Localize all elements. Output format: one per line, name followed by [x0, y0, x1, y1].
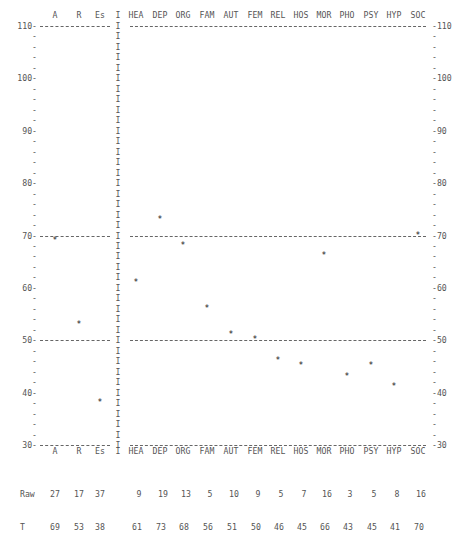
content-scale-label-bottom: HEA [129, 446, 144, 456]
left-axis-tick: - [32, 220, 37, 230]
separator-glyph: I [116, 42, 121, 52]
left-axis-tick: - [32, 63, 37, 73]
data-point-hos: * [299, 362, 304, 370]
t-score: 61 [132, 522, 142, 532]
right-axis-tick: - [432, 419, 437, 429]
right-axis-tick: - [432, 168, 437, 178]
separator-glyph: I [116, 241, 121, 251]
left-axis-tick: - [32, 168, 37, 178]
data-point-r: * [77, 321, 82, 329]
separator-glyph: I [116, 272, 121, 282]
left-axis-label: 50- [22, 335, 37, 345]
right-axis-tick: - [432, 115, 437, 125]
data-point-pho: * [345, 373, 350, 381]
reference-line-30 [40, 445, 110, 446]
raw-score: 9 [137, 489, 142, 499]
separator-glyph: I [116, 356, 121, 366]
right-axis-tick: - [432, 210, 437, 220]
data-point-fam: * [205, 305, 210, 313]
content-scale-label-top: HYP [387, 10, 402, 20]
separator-glyph: I [116, 115, 121, 125]
right-axis-label: -40 [432, 388, 447, 398]
content-scale-label-top: FAM [200, 10, 215, 20]
raw-score: 10 [229, 489, 239, 499]
validity-scale-label-bottom: A [53, 446, 58, 456]
content-scale-label-bottom: HYP [387, 446, 402, 456]
left-axis-tick: - [32, 346, 37, 356]
right-axis-tick: - [432, 262, 437, 272]
left-axis-label: 60- [22, 283, 37, 293]
right-axis-tick: - [432, 304, 437, 314]
t-score: 51 [227, 522, 237, 532]
separator-glyph: I [116, 283, 121, 293]
data-point-dep: * [158, 216, 163, 224]
raw-score: 5 [279, 489, 284, 499]
right-axis-tick: - [432, 241, 437, 251]
right-axis-tick: - [432, 251, 437, 261]
left-axis-tick: - [32, 356, 37, 366]
content-scale-label-bottom: REL [271, 446, 286, 456]
raw-score: 3 [348, 489, 353, 499]
t-score: 46 [274, 522, 284, 532]
left-axis-tick: - [32, 136, 37, 146]
right-axis-label: -50 [432, 335, 447, 345]
reference-line-50 [40, 340, 110, 341]
right-axis-tick: - [432, 42, 437, 52]
right-axis-tick: - [432, 409, 437, 419]
t-score: 69 [50, 522, 60, 532]
mmpi-profile-chart: AREsHEADEPORGFAMAUTFEMRELHOSMORPHOPSYHYP… [0, 0, 476, 555]
left-axis-label: 40- [22, 388, 37, 398]
left-axis-tick: - [32, 94, 37, 104]
raw-score: 19 [158, 489, 168, 499]
separator-glyph: I [116, 168, 121, 178]
left-axis-tick: - [32, 52, 37, 62]
left-axis-label: 70- [22, 231, 37, 241]
right-axis-tick: - [432, 147, 437, 157]
content-scale-label-top: SOC [411, 10, 426, 20]
separator-glyph: I [116, 388, 121, 398]
right-axis-tick: - [432, 52, 437, 62]
raw-score: 8 [395, 489, 400, 499]
raw-score: 9 [256, 489, 261, 499]
right-axis-tick: - [432, 377, 437, 387]
raw-score: 7 [302, 489, 307, 499]
separator-glyph: I [116, 409, 121, 419]
right-axis-tick: - [432, 220, 437, 230]
content-scale-label-top: MOR [317, 10, 332, 20]
raw-score: 37 [95, 489, 105, 499]
right-axis-tick: - [432, 94, 437, 104]
left-axis-tick: - [32, 115, 37, 125]
t-score: 38 [95, 522, 105, 532]
data-point-hyp: * [392, 383, 397, 391]
content-scale-label-bottom: SOC [411, 446, 426, 456]
left-axis-tick: - [32, 84, 37, 94]
separator-glyph: I [116, 314, 121, 324]
right-axis-tick: - [432, 31, 437, 41]
validity-scale-label-bottom: Es [95, 446, 105, 456]
separator-glyph: I [116, 73, 121, 83]
left-axis-label: 30- [22, 440, 37, 450]
left-axis-tick: - [32, 105, 37, 115]
data-point-aut: * [229, 331, 234, 339]
left-axis-label: 110- [17, 21, 37, 31]
separator-glyph: I [116, 251, 121, 261]
right-axis-tick: - [432, 136, 437, 146]
right-axis-tick: - [432, 293, 437, 303]
separator-glyph: I [116, 94, 121, 104]
t-score: 70 [414, 522, 424, 532]
left-axis-tick: - [32, 157, 37, 167]
left-axis-tick: - [32, 272, 37, 282]
separator-glyph: I [116, 293, 121, 303]
separator-glyph: I [116, 210, 121, 220]
right-axis-tick: - [432, 325, 437, 335]
content-scale-label-bottom: FAM [200, 446, 215, 456]
separator-glyph: I [116, 262, 121, 272]
left-axis-tick: - [32, 42, 37, 52]
right-axis-label: -70 [432, 231, 447, 241]
separator-glyph: I [116, 63, 121, 73]
t-score: 68 [179, 522, 189, 532]
t-score: 45 [297, 522, 307, 532]
left-axis-tick: - [32, 409, 37, 419]
left-axis-tick: - [32, 419, 37, 429]
separator-glyph: I [116, 367, 121, 377]
